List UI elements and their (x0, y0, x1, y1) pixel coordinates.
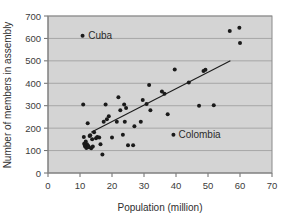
data-point (131, 143, 135, 147)
data-point (100, 152, 104, 156)
data-point (116, 95, 120, 99)
x-tick-label-60: 60 (235, 180, 246, 191)
x-tick-label-40: 40 (171, 180, 182, 191)
data-point (203, 68, 207, 72)
y-tick-label-600: 600 (25, 33, 41, 44)
data-point (132, 124, 136, 128)
data-point (228, 29, 232, 33)
x-tick-label-70: 70 (267, 180, 278, 191)
data-point (145, 102, 149, 106)
data-point (162, 92, 166, 96)
data-point (126, 143, 130, 147)
data-point (92, 130, 96, 134)
data-point (98, 142, 102, 146)
x-tick-label-50: 50 (203, 180, 214, 191)
x-tick-label-20: 20 (107, 180, 118, 191)
data-point (171, 133, 175, 137)
data-point (107, 114, 111, 118)
data-point (86, 121, 90, 125)
data-point (104, 103, 108, 107)
data-point (124, 106, 128, 110)
data-point (197, 104, 201, 108)
data-point (118, 108, 122, 112)
data-point (238, 41, 242, 45)
x-tick-label-30: 30 (139, 180, 150, 191)
data-point (90, 137, 94, 141)
data-point (173, 67, 177, 71)
data-point (148, 108, 152, 112)
data-point (237, 26, 241, 30)
y-tick-label-100: 100 (25, 145, 41, 156)
x-tick-label-0: 0 (45, 180, 50, 191)
plot-area-background (48, 16, 272, 173)
data-point (102, 120, 106, 124)
data-point (212, 103, 216, 107)
y-tick-label-700: 700 (25, 11, 41, 22)
annotation-cuba: Cuba (88, 30, 112, 41)
data-point (97, 136, 101, 140)
data-point (110, 136, 114, 140)
data-point (81, 34, 85, 38)
data-point (166, 112, 170, 116)
data-point (139, 120, 143, 124)
x-tick-label-10: 10 (75, 180, 86, 191)
annotation-colombia: Colombia (178, 129, 221, 140)
y-tick-label-200: 200 (25, 123, 41, 134)
data-point (81, 103, 85, 107)
y-tick-label-0: 0 (36, 168, 41, 179)
data-point (115, 120, 119, 124)
y-tick-label-400: 400 (25, 78, 41, 89)
data-point (147, 83, 151, 87)
x-axis-title: Population (million) (117, 202, 202, 213)
data-point (91, 145, 95, 149)
y-tick-label-500: 500 (25, 55, 41, 66)
data-point (123, 120, 127, 124)
chart-canvas: 0100200300400500600700 010203040506070 C… (0, 0, 288, 219)
y-tick-label-300: 300 (25, 100, 41, 111)
data-point (141, 98, 145, 102)
data-point (121, 133, 125, 137)
data-point (187, 81, 191, 85)
data-point (88, 133, 92, 137)
data-point (122, 103, 126, 107)
data-point (82, 135, 86, 139)
scatter-chart: 0100200300400500600700 010203040506070 C… (0, 0, 288, 219)
y-axis-title: Number of members in assembly (2, 22, 13, 169)
